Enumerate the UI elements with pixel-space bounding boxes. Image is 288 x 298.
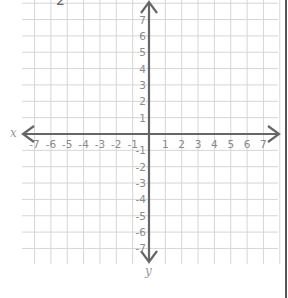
x-tick-label: 6 (244, 138, 251, 150)
y-tick-label: -4 (136, 193, 147, 205)
y-tick-label: 6 (139, 30, 146, 42)
x-tick-label: -3 (95, 138, 105, 150)
y-tick-label: -5 (136, 210, 146, 222)
x-axis-label: x (10, 126, 17, 140)
y-tick-label: -1 (136, 144, 146, 156)
grid-lines (22, 0, 280, 264)
y-tick-label: 7 (139, 14, 146, 26)
x-tick-label: 1 (162, 138, 169, 150)
x-tick-label: 5 (227, 138, 234, 150)
x-tick-label: -6 (46, 138, 57, 150)
y-tick-label: -6 (136, 226, 147, 238)
x-tick-label: 4 (211, 138, 218, 150)
y-tick-label: 5 (139, 46, 146, 58)
x-tick-label: 7 (260, 138, 267, 150)
coordinate-plane: -7-6-5-4-3-2-11234567 7654321-1-2-3-4-5-… (0, 0, 288, 298)
x-tick-label: 2 (178, 138, 185, 150)
y-tick-label: 3 (139, 79, 146, 91)
x-tick-label: 3 (195, 138, 202, 150)
y-axis-label: y (144, 264, 152, 278)
top-partial-label: 2 (56, 0, 65, 8)
right-edge-border (285, 0, 287, 298)
y-tick-label: -3 (136, 177, 146, 189)
x-tick-label: -4 (78, 138, 89, 150)
x-tick-label: -7 (29, 138, 39, 150)
x-tick-label: -5 (62, 138, 72, 150)
axes (23, 2, 279, 262)
y-tick-label: -2 (136, 161, 146, 173)
y-tick-label: -7 (136, 242, 146, 254)
x-tick-label: -2 (111, 138, 121, 150)
y-tick-label: 4 (139, 63, 146, 75)
y-tick-label: 2 (139, 95, 146, 107)
y-tick-label: 1 (139, 112, 146, 124)
